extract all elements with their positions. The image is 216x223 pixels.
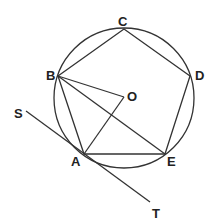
label-a: A — [71, 154, 81, 169]
label-s: S — [14, 106, 23, 121]
segment-ao — [84, 97, 124, 154]
label-c: C — [118, 14, 128, 29]
geometry-diagram: C B D O A E S T — [0, 0, 216, 223]
pentagon-abcde — [58, 29, 190, 154]
label-e: E — [167, 154, 176, 169]
label-t: T — [152, 206, 160, 221]
label-o: O — [127, 89, 137, 104]
tangent-line-st — [26, 111, 150, 202]
segment-be — [58, 76, 165, 154]
label-b: B — [46, 68, 55, 83]
label-d: D — [195, 68, 204, 83]
segment-bo — [58, 76, 124, 97]
